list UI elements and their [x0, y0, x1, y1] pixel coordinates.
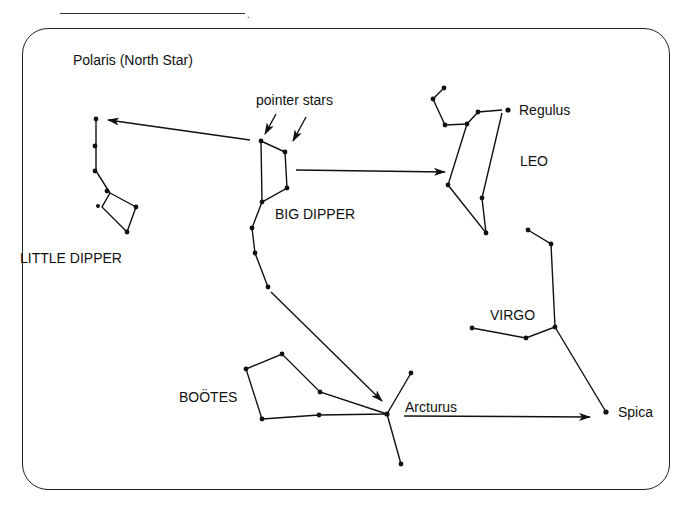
little-dipper-lines: [96, 119, 136, 232]
arrow-to-arcturus: [271, 292, 382, 401]
label-big-dipper: BIG DIPPER: [275, 207, 355, 221]
bootes-lines: [246, 354, 411, 464]
label-spica: Spica: [618, 405, 653, 419]
pointer-arrow-2: [293, 117, 306, 141]
label-bootes: BOÖTES: [179, 390, 237, 404]
label-arcturus: Arcturus: [405, 400, 457, 414]
arrow-to-polaris: [108, 120, 250, 140]
arrow-to-spica: [404, 416, 590, 417]
label-virgo: VIRGO: [490, 308, 535, 322]
label-regulus: Regulus: [519, 103, 570, 117]
label-pointer-stars: pointer stars: [256, 93, 333, 107]
label-little-dipper: LITTLE DIPPER: [20, 251, 122, 265]
label-leo: LEO: [520, 154, 548, 168]
leo-lines: [433, 88, 502, 233]
pointer-arrow-1: [265, 114, 276, 134]
arrow-to-leo: [296, 170, 445, 172]
stars: [93, 86, 609, 467]
label-polaris: Polaris (North Star): [73, 53, 193, 67]
